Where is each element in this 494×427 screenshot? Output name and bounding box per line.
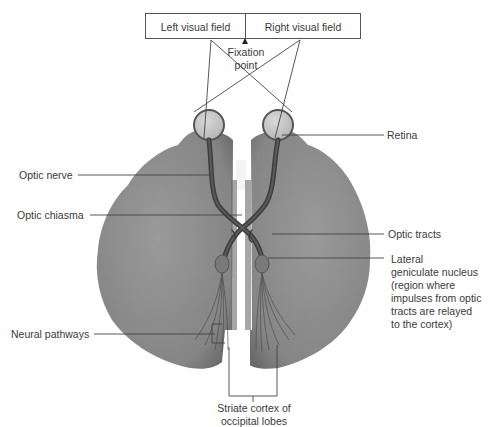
left-eye <box>194 110 224 140</box>
optic-nerve-label: Optic nerve <box>19 169 73 182</box>
right-hemisphere <box>244 130 370 369</box>
fixation-point-label: Fixation point <box>222 46 270 72</box>
left-visual-field-box: Left visual field <box>145 13 246 39</box>
striate-cortex-label: Striate cortex of occipital lobes <box>210 402 298 427</box>
left-visual-field-label: Left visual field <box>161 21 230 33</box>
right-visual-field-box: Right visual field <box>245 13 361 39</box>
optic-chiasma-label: Optic chiasma <box>17 209 84 222</box>
right-visual-field-label: Right visual field <box>265 21 341 33</box>
neural-pathways-label: Neural pathways <box>11 328 89 341</box>
right-lgn <box>255 255 269 273</box>
left-lgn <box>215 255 229 273</box>
lateral-geniculate-label: Lateral geniculate nucleus (region where… <box>391 253 481 331</box>
optic-tracts-label: Optic tracts <box>388 228 441 241</box>
retina-label: Retina <box>387 129 417 142</box>
